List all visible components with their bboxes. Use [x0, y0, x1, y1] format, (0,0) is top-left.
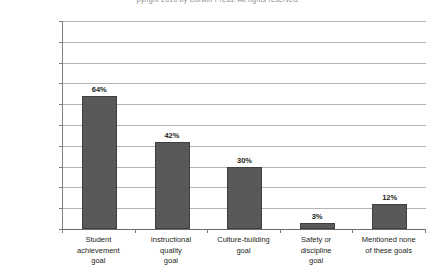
bar-value-label: 12%	[353, 193, 426, 202]
x-axis-category-label: Safety ordisciplinegoal	[277, 235, 355, 267]
axis-baseline	[63, 229, 426, 230]
bar-value-label: 3%	[281, 212, 354, 221]
bar-slot: 12%	[353, 21, 426, 229]
bar-series: 64%42%30%3%12%	[63, 21, 426, 229]
bar-value-label: 64%	[63, 85, 136, 94]
bar-slot: 42%	[136, 21, 209, 229]
bar-slot: 64%	[63, 21, 136, 229]
x-axis-category-label: Instructionalqualitygoal	[132, 235, 210, 267]
bar-value-label: 42%	[136, 131, 209, 140]
bar-slot: 30%	[208, 21, 281, 229]
x-axis-tick	[62, 229, 63, 233]
x-axis-category-label: Studentachievementgoal	[59, 235, 137, 267]
x-axis-category-label: Mentioned noneof these goals	[350, 235, 428, 256]
bar-chart: pyright 2010 by Corwin Press. All rights…	[0, 0, 436, 280]
x-axis-category-labels: StudentachievementgoalInstructionalquali…	[62, 235, 425, 280]
x-axis-tick	[352, 229, 353, 233]
plot-area: 64%42%30%3%12%	[62, 21, 425, 229]
bar	[82, 96, 117, 229]
clipped-title-text: pyright 2010 by Corwin Press. All rights…	[0, 0, 436, 4]
x-axis-tick	[280, 229, 281, 233]
x-axis-tick	[425, 229, 426, 233]
bar	[227, 167, 262, 229]
bar	[300, 223, 335, 229]
bar	[155, 142, 190, 229]
x-axis-tick	[135, 229, 136, 233]
bar-slot: 3%	[281, 21, 354, 229]
bar-value-label: 30%	[208, 156, 281, 165]
x-axis-tick	[207, 229, 208, 233]
x-axis-category-label: Culture-buildinggoal	[205, 235, 283, 256]
bar	[372, 204, 407, 229]
